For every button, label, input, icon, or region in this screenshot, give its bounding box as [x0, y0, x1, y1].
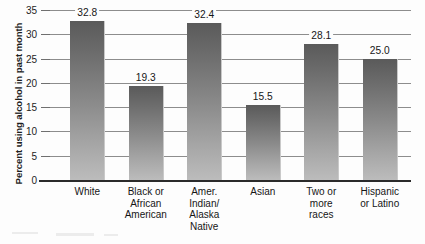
x-axis-category-label-line: Native — [189, 221, 219, 233]
y-axis-tick-label: 0 — [31, 175, 37, 186]
bar — [129, 86, 164, 180]
x-axis-category-label-line: Asian — [250, 186, 275, 198]
bar-value-label: 32.4 — [192, 9, 216, 20]
y-axis-tick-label: 5 — [31, 150, 37, 161]
y-axis-tick — [41, 156, 50, 157]
x-axis-category-label-line: Hispanic — [360, 186, 399, 198]
bar — [304, 44, 339, 180]
x-axis-category-label-line: or Latino — [360, 198, 399, 210]
bar-chart-figure: Percent using alcohol in past month 0510… — [0, 0, 425, 244]
x-axis-category-label-line: Indian/ — [189, 198, 219, 210]
y-axis-title: Percent using alcohol in past month — [13, 14, 24, 194]
x-axis-category-label: Black orAfricanAmerican — [125, 186, 167, 221]
bar-value-label: 28.1 — [309, 30, 333, 41]
y-axis-tick-label: 35 — [26, 5, 37, 16]
y-axis-tick — [41, 83, 50, 84]
x-axis-category-label: White — [74, 186, 100, 198]
x-axis-category-label-line: African — [125, 198, 167, 210]
y-axis-tick — [41, 10, 50, 11]
x-axis-category-label-line: more — [306, 198, 336, 210]
bar — [363, 59, 398, 180]
gridline — [50, 10, 411, 11]
x-axis-category-label: Hispanicor Latino — [360, 186, 399, 209]
x-axis-baseline — [39, 180, 411, 182]
y-axis-tick-label: 20 — [26, 77, 37, 88]
scan-artifact — [56, 233, 94, 236]
y-axis-tick-label: 15 — [26, 102, 37, 113]
y-axis-tick-label: 10 — [26, 126, 37, 137]
x-axis-category-label-line: Two or — [306, 186, 336, 198]
plot-area: 05101520253035 32.819.332.415.528.125.0 — [50, 10, 411, 182]
x-axis-category-label: Amer.Indian/AlaskaNative — [189, 186, 219, 232]
bar — [70, 21, 105, 180]
y-axis-tick — [41, 59, 50, 60]
x-axis-category-label: Two ormoreraces — [306, 186, 336, 221]
y-axis-tick-label: 30 — [26, 29, 37, 40]
x-axis-category-label-line: races — [306, 209, 336, 221]
x-axis-category-label: Asian — [250, 186, 275, 198]
bar-value-label: 19.3 — [134, 72, 158, 83]
y-axis-tick — [41, 131, 50, 132]
bar-value-label: 25.0 — [368, 45, 392, 56]
y-axis-tick — [41, 107, 50, 108]
x-axis-category-label-line: Amer. — [189, 186, 219, 198]
scan-artifact — [12, 232, 38, 234]
x-axis-category-label-line: American — [125, 209, 167, 221]
bar — [187, 23, 222, 180]
bar — [246, 105, 281, 180]
bar-value-label: 15.5 — [251, 91, 275, 102]
y-axis-tick-label: 25 — [26, 53, 37, 64]
bar-value-label: 32.8 — [75, 7, 99, 18]
x-axis-category-label-line: White — [74, 186, 100, 198]
y-axis-tick — [41, 34, 50, 35]
x-axis-category-label-line: Alaska — [189, 209, 219, 221]
x-axis-category-label-line: Black or — [125, 186, 167, 198]
scan-artifact — [104, 234, 118, 236]
